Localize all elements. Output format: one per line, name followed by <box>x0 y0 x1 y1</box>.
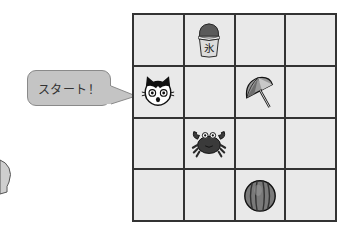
watermelon-icon <box>241 176 279 214</box>
board-cell-r4c4[interactable] <box>285 169 336 221</box>
board-cell-r2c4[interactable] <box>285 66 336 118</box>
board-cell-r3c3[interactable] <box>235 118 286 170</box>
board-cell-r4c1[interactable] <box>133 169 184 221</box>
cat-icon <box>139 73 177 111</box>
board-cell-r4c2[interactable] <box>184 169 235 221</box>
board-cell-r3c1[interactable] <box>133 118 184 170</box>
board-cell-r2c3[interactable] <box>235 66 286 118</box>
board-cell-r2c1[interactable] <box>133 66 184 118</box>
start-speech-text: スタート！ <box>38 80 101 97</box>
game-board: 氷 <box>132 13 337 222</box>
board-cell-r3c2[interactable] <box>184 118 235 170</box>
board-cell-r1c4[interactable] <box>285 14 336 66</box>
shaved-ice-icon: 氷 <box>190 21 228 59</box>
svg-text:氷: 氷 <box>204 42 215 54</box>
board-cell-r1c1[interactable] <box>133 14 184 66</box>
crab-icon <box>190 124 228 162</box>
partial-shell-icon <box>0 158 14 196</box>
parasol-icon <box>241 73 279 111</box>
board-cell-r4c3[interactable] <box>235 169 286 221</box>
board-cell-r1c2[interactable]: 氷 <box>184 14 235 66</box>
start-speech-bubble: スタート！ <box>27 70 111 106</box>
board-cell-r2c2[interactable] <box>184 66 235 118</box>
board-cell-r1c3[interactable] <box>235 14 286 66</box>
board-cell-r3c4[interactable] <box>285 118 336 170</box>
